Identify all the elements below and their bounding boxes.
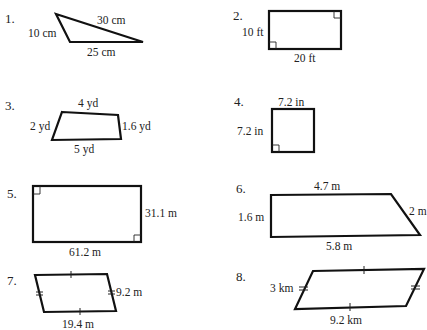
problem-number: 7. bbox=[7, 273, 17, 288]
rectangle-figure bbox=[33, 186, 141, 242]
problem-number: 3. bbox=[5, 98, 15, 113]
side-label-right: 9.2 m bbox=[116, 286, 142, 298]
side-label-left: 10 ft bbox=[242, 26, 264, 38]
problem-8: 8. 3 km 9.2 km bbox=[236, 266, 424, 326]
parallelogram-figure bbox=[295, 269, 424, 309]
side-label-right: 1.6 yd bbox=[122, 120, 151, 133]
side-label-left: 7.2 in bbox=[237, 125, 263, 137]
side-label-bottom: 5 yd bbox=[74, 143, 94, 156]
problem-number: 5. bbox=[7, 186, 17, 201]
side-label-left: 10 cm bbox=[28, 27, 56, 39]
problem-number: 8. bbox=[236, 269, 246, 284]
side-label-top: 4.7 m bbox=[314, 180, 340, 192]
trapezoid-figure bbox=[271, 194, 420, 237]
problem-2: 2. 10 ft 20 ft bbox=[233, 8, 341, 64]
side-label-top: 4 yd bbox=[78, 97, 98, 110]
side-label-bottom: 19.4 m bbox=[62, 318, 94, 330]
rectangle-figure bbox=[269, 11, 341, 49]
side-label-bottom: 61.2 m bbox=[69, 246, 101, 258]
square-figure bbox=[272, 109, 314, 152]
problem-number: 4. bbox=[234, 94, 244, 109]
parallelogram-figure bbox=[35, 274, 116, 312]
worksheet-figures: 1. 10 cm 30 cm 25 cm 2. 10 ft 20 ft 3. 4… bbox=[0, 0, 427, 330]
side-label-right: 31.1 m bbox=[145, 207, 177, 219]
problem-number: 1. bbox=[5, 11, 15, 26]
side-label-left: 1.6 m bbox=[238, 211, 264, 223]
problem-number: 6. bbox=[236, 181, 246, 196]
problem-4: 4. 7.2 in 7.2 in bbox=[234, 94, 314, 152]
problem-number: 2. bbox=[233, 8, 243, 23]
side-label-top: 7.2 in bbox=[278, 96, 304, 108]
problem-1: 1. 10 cm 30 cm 25 cm bbox=[5, 11, 143, 58]
side-label-bottom: 9.2 km bbox=[330, 314, 362, 326]
side-label-right: 2 m bbox=[409, 205, 427, 217]
problem-7: 7. 9.2 m 19.4 m bbox=[7, 271, 142, 330]
side-label-left: 3 km bbox=[270, 282, 293, 294]
side-label-bottom: 25 cm bbox=[87, 46, 115, 58]
side-label-bottom: 5.8 m bbox=[326, 240, 352, 252]
problem-6: 6. 4.7 m 1.6 m 2 m 5.8 m bbox=[236, 180, 427, 252]
problem-5: 5. 31.1 m 61.2 m bbox=[7, 186, 177, 258]
problem-3: 3. 4 yd 2 yd 1.6 yd 5 yd bbox=[5, 97, 151, 156]
quadrilateral-figure bbox=[52, 112, 121, 140]
side-label-top: 30 cm bbox=[97, 14, 125, 26]
side-label-bottom: 20 ft bbox=[294, 52, 316, 64]
side-label-left: 2 yd bbox=[30, 120, 50, 133]
